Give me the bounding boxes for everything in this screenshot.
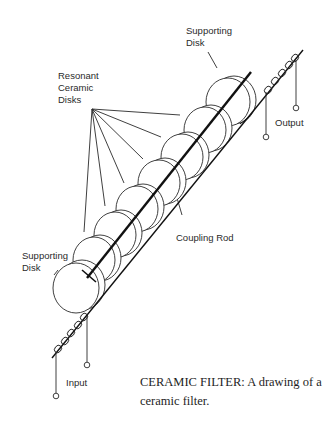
label-supporting-disk-top: Supporting Disk: [186, 25, 232, 49]
label-resonant-ceramic-disks: Resonant Ceramic Disks: [58, 70, 99, 106]
label-supporting-disk-bottom: Supporting Disk: [22, 250, 68, 274]
coupling-rod: [87, 72, 251, 278]
output-coil: [263, 53, 300, 95]
supporting-disk-top-leader: [208, 52, 217, 68]
label-input: Input: [66, 377, 87, 389]
figure-caption: CERAMIC FILTER: A drawing of a ceramic f…: [140, 373, 325, 411]
ceramic-filter-drawing: [0, 0, 327, 426]
label-coupling-rod: Coupling Rod: [176, 232, 234, 244]
label-output: Output: [275, 117, 304, 129]
